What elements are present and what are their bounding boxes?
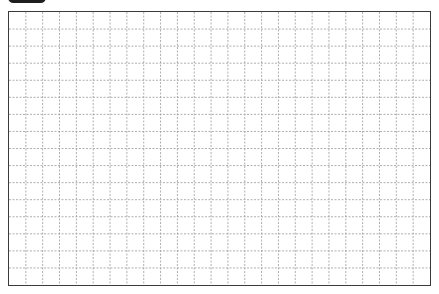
grid-paper bbox=[8, 11, 431, 286]
grid-lines bbox=[9, 12, 430, 285]
top-tab-handle bbox=[8, 0, 46, 3]
